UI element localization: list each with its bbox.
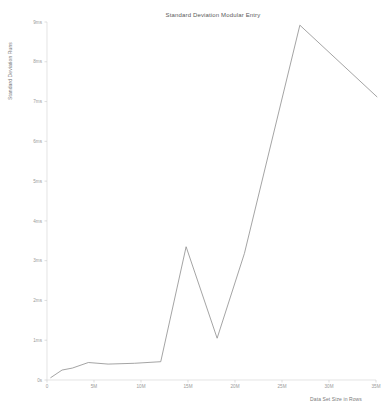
x-tick-label: 0 [46,384,49,389]
y-tick-label: 8ms [33,59,42,64]
y-tick-label: 7ms [33,99,42,104]
y-tick-label: 9ms [33,20,42,25]
x-tick-label: 15M [184,384,193,389]
y-axis-title: Standard Deviation Runs [7,42,13,100]
x-axis-title: Data Set Size in Rows [310,396,362,402]
x-tick-label: 20M [231,384,240,389]
chart-container: Standard Deviation Modular Entry Standar… [0,0,382,411]
x-tick-group: 05M10M15M20M25M30M35M [46,380,381,389]
y-tick-group: 0s1ms2ms3ms4ms5ms6ms7ms8ms9ms [33,20,47,383]
x-axis: 05M10M15M20M25M30M35M [46,380,381,389]
y-tick-label: 6ms [33,139,42,144]
y-tick-label: 5ms [33,179,42,184]
data-series-line [51,25,377,377]
x-tick-label: 35M [372,384,381,389]
y-tick-label: 1ms [33,338,42,343]
y-tick-label: 4ms [33,219,42,224]
chart-title: Standard Deviation Modular Entry [166,12,261,18]
y-tick-label: 2ms [33,298,42,303]
x-tick-label: 5M [91,384,98,389]
y-tick-label: 0s [37,378,43,383]
x-tick-label: 25M [278,384,287,389]
line-chart: Standard Deviation Modular Entry Standar… [0,0,382,411]
y-tick-label: 3ms [33,258,42,263]
x-tick-label: 30M [325,384,334,389]
series-group [51,25,377,377]
x-tick-label: 10M [137,384,146,389]
y-axis: 0s1ms2ms3ms4ms5ms6ms7ms8ms9ms [33,20,47,383]
